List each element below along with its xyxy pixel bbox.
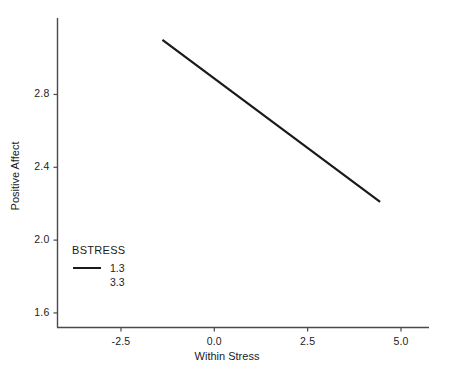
x-tick-label: 5.0 [371, 335, 431, 347]
chart-container: 1.62.02.42.8 -2.50.02.55.0 Positive Affe… [0, 0, 454, 380]
legend-entries: 1.33.3 [72, 261, 125, 289]
x-tick-label: -2.5 [91, 335, 151, 347]
legend-entry: 1.3 [72, 261, 125, 275]
plot-area [0, 0, 454, 380]
series-line-3.3 [162, 127, 380, 231]
x-axis-title: Within Stress [0, 350, 454, 362]
x-tick-label: 2.5 [278, 335, 338, 347]
x-tick-label: 0.0 [184, 335, 244, 347]
data-series-group [162, 40, 380, 231]
y-tick-label: 1.6 [8, 306, 50, 318]
y-tick-label: 2.8 [8, 87, 50, 99]
legend: BSTRESS 1.33.3 [72, 244, 125, 289]
legend-label: 1.3 [110, 262, 125, 274]
legend-line-swatch [72, 261, 102, 275]
y-axis-title: Positive Affect [9, 116, 21, 236]
legend-title: BSTRESS [72, 244, 125, 256]
series-line-1.3 [162, 40, 380, 202]
legend-label: 3.3 [110, 276, 125, 288]
legend-entry: 3.3 [72, 275, 125, 289]
legend-line-swatch [72, 275, 102, 289]
